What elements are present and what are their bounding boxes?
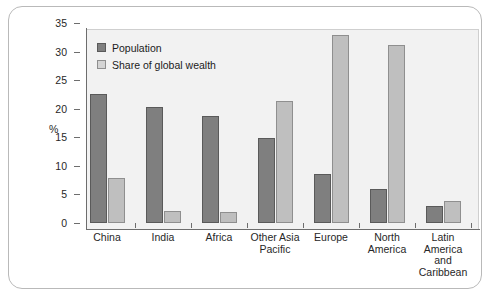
x-axis-category-label: North America [359, 232, 415, 255]
bar [220, 212, 237, 223]
x-axis-category-label: India [135, 232, 191, 244]
bar [370, 189, 387, 223]
x-axis-category-label: Other Asia Pacific [247, 232, 303, 255]
legend-item: Population [97, 40, 216, 55]
chart-legend: PopulationShare of global wealth [97, 40, 216, 74]
legend-item: Share of global wealth [97, 57, 216, 72]
figure-frame: % 05101520253035 ChinaIndiaAfricaOther A… [8, 6, 482, 289]
y-axis-tick [74, 166, 80, 167]
x-axis-category-label: China [79, 232, 135, 244]
y-axis-tick-label-text: 0 [43, 218, 67, 229]
y-axis-tick-label-text: 10 [43, 161, 67, 172]
y-axis-tick [74, 23, 80, 24]
x-axis-tick [471, 223, 472, 228]
y-axis-tick-label-text: 25 [43, 75, 67, 86]
y-axis-tick [74, 109, 80, 110]
legend-item-label: Population [112, 42, 162, 54]
y-axis-tick-label: 5 [41, 189, 67, 199]
bar [426, 206, 443, 223]
bar [164, 211, 181, 223]
x-axis-category-label: Africa [191, 232, 247, 244]
y-axis-tick-label-text: 30 [43, 47, 67, 58]
y-axis-tick [74, 80, 80, 81]
legend-swatch-icon [97, 60, 106, 69]
bar [146, 107, 163, 223]
bar [202, 116, 219, 223]
x-axis-tick [191, 223, 192, 228]
y-axis-tick-label: 0 [41, 218, 67, 228]
y-axis-tick-label: 25 [41, 75, 67, 85]
legend-item-label: Share of global wealth [112, 59, 216, 71]
y-axis-tick-label-text: 15 [43, 132, 67, 143]
y-axis-line [86, 28, 87, 230]
x-axis-tick [415, 223, 416, 228]
legend-swatch-icon [97, 43, 106, 52]
y-axis-tick-label: 20 [41, 104, 67, 114]
y-axis-tick-label: 10 [41, 161, 67, 171]
y-axis-tick-label: 35 [41, 18, 67, 28]
x-axis-tick [247, 223, 248, 228]
y-axis-tick-label-text: 20 [43, 104, 67, 115]
bar [314, 174, 331, 223]
bar [90, 94, 107, 223]
bar [444, 201, 461, 223]
y-axis-tick-label: 30 [41, 47, 67, 57]
bar [388, 45, 405, 223]
y-axis-tick-label-text: 35 [43, 18, 67, 29]
y-axis-tick-label: 15 [41, 132, 67, 142]
y-axis-tick [74, 194, 80, 195]
y-axis-tick [74, 52, 80, 53]
bar [258, 138, 275, 223]
y-axis-tick [74, 223, 80, 224]
bar [276, 101, 293, 223]
x-axis-category-label: Europe [303, 232, 359, 244]
x-axis-tick [303, 223, 304, 228]
x-axis-category-label: Latin America and Caribbean [415, 232, 471, 278]
bar [108, 178, 125, 223]
x-axis-line [86, 229, 480, 230]
bar [332, 35, 349, 223]
x-axis-tick [135, 223, 136, 228]
y-axis-tick [74, 137, 80, 138]
x-axis-tick [359, 223, 360, 228]
y-axis-tick-label-text: 5 [43, 189, 67, 200]
